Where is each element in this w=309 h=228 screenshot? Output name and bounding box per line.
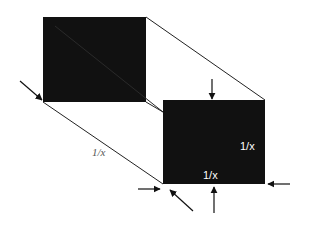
top-edge bbox=[146, 17, 265, 100]
height-label: 1/x bbox=[240, 140, 255, 152]
bottom-edge bbox=[43, 102, 163, 184]
left-diagonal-arrow-icon bbox=[20, 81, 42, 100]
back-face bbox=[43, 17, 146, 102]
width-label: 1/x bbox=[203, 169, 218, 181]
middle-edge bbox=[146, 102, 163, 112]
bottom-diagonal-arrow-icon bbox=[170, 190, 193, 211]
length-label: 1/x bbox=[92, 146, 106, 158]
prism-diagram: 1/x 1/x 1/x bbox=[0, 0, 309, 228]
